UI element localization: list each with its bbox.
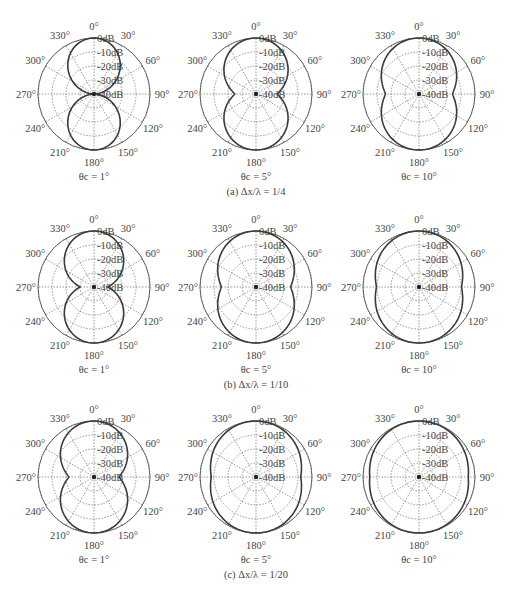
angle-tick-label: 330° [212,223,232,234]
angle-tick-label: 120° [305,316,325,327]
angle-tick-label: 60° [146,55,161,66]
grid-spoke [419,477,447,525]
grid-spoke [208,449,256,477]
grid-spoke [46,66,94,94]
angle-tick-label: 0° [251,21,260,32]
angle-tick-label: 330° [212,413,232,424]
grid-spoke [208,287,256,315]
radial-tick-label: -20dB [259,254,285,265]
grid-spoke [391,239,419,287]
plot-subtitle: θc = 1° [79,171,109,182]
grid-spoke [46,449,94,477]
angle-tick-label: 0° [251,214,260,225]
angle-tick-label: 300° [350,438,370,449]
radial-tick-label: -30dB [259,75,285,86]
angle-tick-label: 150° [443,147,463,158]
center-dot [254,285,258,289]
angle-tick-label: 180° [409,157,429,168]
grid-spoke [228,46,256,94]
angle-tick-label: 120° [305,123,325,134]
angle-tick-label: 300° [25,248,45,259]
center-dot [417,475,421,479]
angle-tick-label: 30° [121,413,136,424]
grid-spoke [419,287,447,335]
angle-tick-label: 30° [446,30,461,41]
radial-tick-label: -20dB [97,444,123,455]
plot-subtitle: θc = 10° [401,364,437,375]
angle-tick-label: 240° [350,316,370,327]
angle-tick-label: 180° [409,540,429,551]
angle-tick-label: 180° [84,157,104,168]
center-dot [92,92,96,96]
angle-tick-label: 90° [317,282,332,293]
angle-tick-label: 150° [280,530,300,541]
grid-spoke [208,477,256,505]
grid-spoke [391,429,419,477]
grid-spoke [256,477,284,525]
angle-tick-label: 270° [16,282,36,293]
angle-tick-label: 90° [317,472,332,483]
angle-tick-label: 0° [251,404,260,415]
center-dot [92,285,96,289]
angle-tick-label: 120° [468,123,488,134]
plot-subtitle: θc = 1° [79,554,109,565]
grid-spoke [228,477,256,525]
radial-tick-label: -20dB [422,61,448,72]
angle-tick-label: 120° [305,506,325,517]
angle-tick-label: 0° [414,21,423,32]
angle-tick-label: 210° [212,340,232,351]
angle-tick-label: 180° [84,540,104,551]
radial-tick-label: -30dB [259,458,285,469]
angle-tick-label: 180° [246,157,266,168]
angle-tick-label: 60° [146,248,161,259]
angle-tick-label: 240° [350,506,370,517]
angle-tick-label: 270° [178,282,198,293]
angle-tick-label: 240° [25,506,45,517]
grid-spoke [256,287,284,335]
grid-spoke [256,94,284,142]
angle-tick-label: 120° [143,506,163,517]
row-caption: (a) Δx/λ = 1/4 [227,186,287,198]
angle-tick-label: 0° [89,21,98,32]
plot-subtitle: θc = 10° [401,171,437,182]
angle-tick-label: 0° [414,214,423,225]
angle-tick-label: 330° [50,30,70,41]
angle-tick-label: 210° [375,147,395,158]
angle-tick-label: 60° [471,55,486,66]
grid-spoke [208,259,256,287]
radial-tick-label: -10dB [422,430,448,441]
angle-tick-label: 30° [446,223,461,234]
polar-pattern-figure: 0°30°60°90°120°150°180°210°240°270°300°3… [0,0,508,596]
angle-tick-label: 30° [283,413,298,424]
radial-tick-label: -20dB [422,254,448,265]
angle-tick-label: 240° [187,123,207,134]
grid-spoke [46,259,94,287]
radial-tick-label: -30dB [259,268,285,279]
angle-tick-label: 240° [350,123,370,134]
radial-tick-label: -30dB [422,268,448,279]
radial-tick-label: -30dB [97,75,123,86]
angle-tick-label: 30° [283,223,298,234]
radial-tick-label: -20dB [259,61,285,72]
angle-tick-label: 330° [50,223,70,234]
angle-tick-label: 210° [50,147,70,158]
angle-tick-label: 120° [143,316,163,327]
radial-tick-label: -40dB [259,282,285,293]
angle-tick-label: 270° [341,89,361,100]
angle-tick-label: 150° [280,147,300,158]
angle-tick-label: 60° [146,438,161,449]
angle-tick-label: 240° [187,316,207,327]
grid-spoke [46,287,94,315]
angle-tick-label: 60° [308,248,323,259]
center-dot [417,285,421,289]
angle-tick-label: 210° [212,530,232,541]
angle-tick-label: 330° [375,30,395,41]
angle-tick-label: 300° [187,248,207,259]
angle-tick-label: 270° [341,282,361,293]
radial-tick-label: -10dB [259,430,285,441]
angle-tick-label: 90° [155,282,170,293]
radial-tick-label: -40dB [259,472,285,483]
grid-spoke [94,477,122,525]
angle-tick-label: 330° [212,30,232,41]
plot-subtitle: θc = 5° [241,171,271,182]
